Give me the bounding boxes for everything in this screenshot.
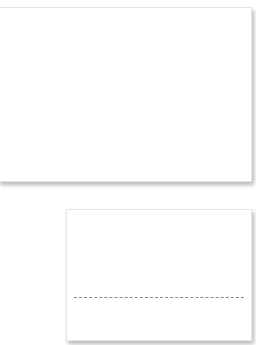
blank-card-top [0, 7, 252, 182]
canvas [0, 0, 256, 345]
dashed-divider-line [74, 297, 244, 298]
blank-card-bottom [66, 209, 252, 341]
